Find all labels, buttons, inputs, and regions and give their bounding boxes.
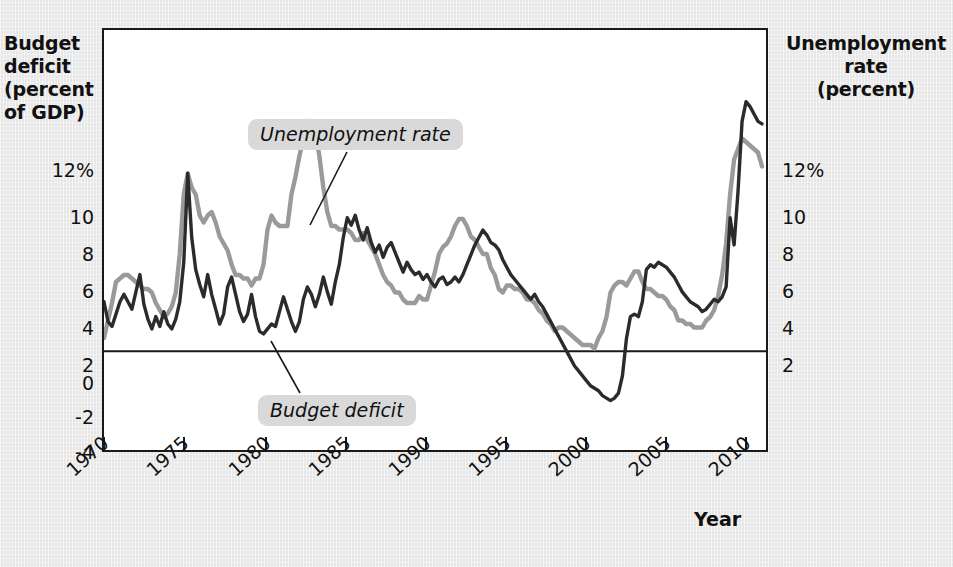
budget-deficit-leader-line	[271, 341, 300, 393]
budget-deficit-callout: Budget deficit	[258, 395, 416, 426]
unemployment-leader-line	[310, 152, 347, 225]
unemployment-rate-callout: Unemployment rate	[248, 119, 463, 150]
callout-leader-lines	[0, 0, 953, 567]
